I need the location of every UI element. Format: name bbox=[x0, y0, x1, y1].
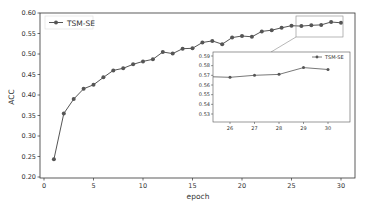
inset-y-tick-label: 0.56 bbox=[199, 82, 210, 88]
data-point bbox=[72, 97, 76, 101]
inset-axes: 26272829300.530.540.550.560.570.580.59 bbox=[199, 52, 350, 131]
x-tick-label: 25 bbox=[287, 182, 295, 190]
data-point bbox=[141, 59, 145, 63]
data-point bbox=[220, 42, 224, 46]
inset-x-tick-label: 27 bbox=[251, 125, 257, 131]
zoom-connector-line bbox=[271, 37, 296, 52]
x-tick-label: 15 bbox=[188, 182, 196, 190]
accuracy-line-chart: 0510152025300.200.250.300.350.400.450.50… bbox=[0, 0, 367, 207]
y-tick-label: 0.30 bbox=[22, 132, 36, 140]
inset-x-tick-label: 28 bbox=[276, 125, 282, 131]
x-axis-label: epoch bbox=[187, 192, 210, 201]
inset-frame bbox=[213, 52, 350, 122]
data-point bbox=[161, 50, 165, 54]
legend-label: TSM-SE bbox=[66, 19, 95, 28]
data-point bbox=[151, 57, 155, 61]
y-tick-label: 0.35 bbox=[22, 112, 36, 120]
y-tick-label: 0.20 bbox=[22, 173, 36, 181]
inset-legend-label: TSM-SE bbox=[324, 54, 344, 60]
x-tick-label: 30 bbox=[337, 182, 345, 190]
data-point bbox=[270, 28, 274, 32]
inset-y-tick-label: 0.53 bbox=[199, 111, 210, 117]
data-point bbox=[181, 47, 185, 51]
y-tick-label: 0.40 bbox=[22, 91, 36, 99]
data-point bbox=[290, 24, 294, 28]
inset-x-tick-label: 29 bbox=[300, 125, 306, 131]
data-point bbox=[280, 26, 284, 30]
legend: TSM-SE bbox=[45, 16, 95, 29]
data-point bbox=[299, 24, 303, 28]
inset-data-point bbox=[278, 73, 281, 76]
data-point bbox=[62, 111, 66, 115]
x-tick-label: 5 bbox=[91, 182, 95, 190]
data-point bbox=[111, 68, 115, 72]
inset-y-tick-label: 0.54 bbox=[199, 101, 210, 107]
data-point bbox=[191, 46, 195, 50]
data-point bbox=[260, 29, 264, 33]
inset-data-point bbox=[229, 76, 232, 79]
data-point bbox=[210, 39, 214, 43]
data-point bbox=[339, 21, 343, 25]
inset-legend-marker-icon bbox=[316, 56, 319, 59]
y-axis-label: ACC bbox=[7, 89, 16, 104]
inset-data-point bbox=[302, 66, 305, 69]
data-point bbox=[309, 23, 313, 27]
data-point bbox=[52, 157, 56, 161]
inset-y-tick-label: 0.55 bbox=[199, 91, 210, 97]
data-point bbox=[240, 34, 244, 38]
y-tick-label: 0.25 bbox=[22, 153, 36, 161]
data-point bbox=[200, 41, 204, 45]
x-tick-label: 20 bbox=[238, 182, 246, 190]
data-point bbox=[329, 20, 333, 24]
inset-data-point bbox=[253, 74, 256, 77]
legend-marker-icon bbox=[54, 21, 58, 25]
inset-y-tick-label: 0.59 bbox=[199, 53, 210, 59]
y-tick-label: 0.55 bbox=[22, 30, 36, 38]
inset-data-point bbox=[327, 68, 330, 71]
data-point bbox=[131, 62, 135, 66]
data-point bbox=[250, 35, 254, 39]
data-point bbox=[121, 66, 125, 70]
data-point bbox=[101, 75, 105, 79]
inset-x-tick-label: 30 bbox=[325, 125, 331, 131]
y-tick-label: 0.45 bbox=[22, 71, 36, 79]
data-point bbox=[92, 83, 96, 87]
inset-x-tick-label: 26 bbox=[227, 125, 233, 131]
data-point bbox=[319, 23, 323, 27]
y-tick-label: 0.50 bbox=[22, 50, 36, 58]
data-point bbox=[82, 87, 86, 91]
x-tick-label: 10 bbox=[139, 182, 147, 190]
inset-y-tick-label: 0.57 bbox=[199, 72, 210, 78]
y-tick-label: 0.60 bbox=[22, 9, 36, 17]
x-tick-label: 0 bbox=[42, 182, 46, 190]
data-point bbox=[230, 36, 234, 40]
inset-y-tick-label: 0.58 bbox=[199, 62, 210, 68]
data-point bbox=[171, 52, 175, 56]
